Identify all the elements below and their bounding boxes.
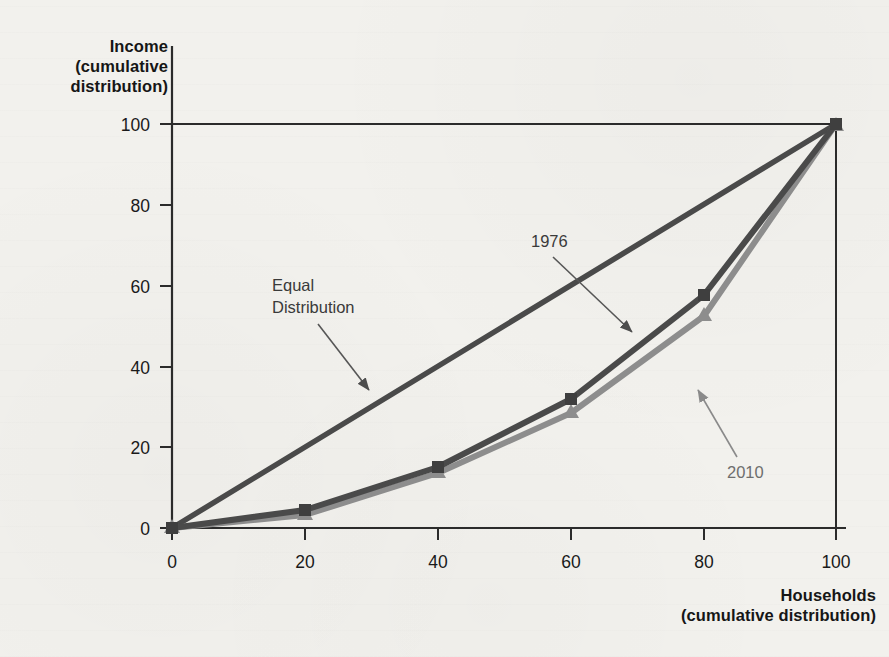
y-axis-label-line2: (cumulative [0,56,168,76]
y-tick-label-40: 40 [131,358,151,378]
x-tick-label-40: 40 [428,552,448,572]
x-tick-label-20: 20 [295,552,315,572]
annotation-equal-distribution-arrow [318,324,369,390]
x-tick-label-100: 100 [821,552,850,572]
series-1976-marker [299,504,311,516]
lorenz-curve-figure: Income (cumulative distribution) Househo… [0,0,889,657]
x-tick-label-60: 60 [561,552,581,572]
series-1976-marker [432,461,444,473]
y-tick-label-20: 20 [131,438,151,458]
series-1976-marker [565,393,577,405]
annotation-equal-distribution-line2: Distribution [272,298,355,316]
y-axis-label-line3: distribution) [0,76,168,96]
annotation-2010-label: 2010 [727,463,764,481]
annotation-1976-arrow [553,257,632,332]
y-axis-ticks: 100 80 60 40 20 0 [121,115,172,539]
y-tick-label-100: 100 [121,115,150,135]
series-1976-marker [830,118,842,130]
y-axis-label-line1: Income [0,36,168,56]
annotation-equal-distribution: Equal Distribution [272,276,369,390]
y-tick-label-80: 80 [131,196,151,216]
annotation-2010-arrow [698,390,737,457]
chart-canvas: 100 80 60 40 20 0 0 20 40 60 80 100 [0,0,889,657]
x-tick-label-0: 0 [167,552,177,572]
series-1976-marker [698,289,710,301]
annotation-2010: 2010 [698,390,764,481]
x-axis-label: Households (cumulative distribution) [560,585,876,625]
y-tick-label-0: 0 [140,519,150,539]
annotation-equal-distribution-line1: Equal [272,276,314,294]
x-axis-label-line1: Households [560,585,876,605]
x-axis-ticks: 0 20 40 60 80 100 [167,528,851,572]
annotation-1976-label: 1976 [531,232,568,250]
series-1976-marker [166,522,178,534]
x-axis-label-line2: (cumulative distribution) [560,605,876,625]
x-tick-label-80: 80 [694,552,714,572]
y-tick-label-60: 60 [131,277,151,297]
y-axis-label: Income (cumulative distribution) [0,36,168,96]
